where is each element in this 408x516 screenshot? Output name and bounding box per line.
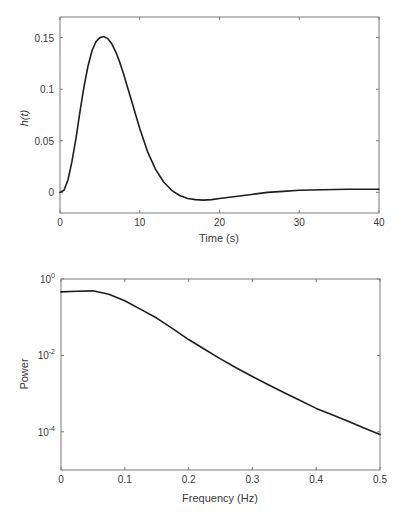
top-x-ticks: 010203040: [57, 17, 385, 228]
x-tick-label: 20: [214, 217, 226, 228]
bottom-x-ticks: 00.10.20.30.40.5: [58, 279, 387, 485]
y-tick-label: 0.15: [35, 33, 55, 44]
top-y-ticks: 00.050.10.15: [35, 33, 379, 199]
x-tick-label: 10: [134, 217, 146, 228]
x-tick-label: 0.2: [182, 474, 196, 485]
bottom-x-axis-label: Frequency (Hz): [182, 492, 258, 504]
impulse-response-curve: [60, 37, 379, 201]
top-y-axis-label: h(t): [18, 109, 30, 126]
x-tick-label: 0: [57, 217, 63, 228]
power-spectrum-curve: [61, 291, 380, 435]
bottom-y-axis-label: Power: [18, 358, 30, 390]
y-tick-label: 100: [40, 272, 55, 285]
x-tick-label: 40: [373, 217, 385, 228]
x-tick-label: 0.5: [373, 474, 387, 485]
bottom-axes-frame: [61, 279, 380, 470]
y-tick-label: 0.05: [35, 136, 55, 147]
x-tick-label: 0.4: [309, 474, 323, 485]
top-axes-frame: [60, 17, 379, 213]
y-tick-label: 10-4: [38, 425, 55, 438]
x-tick-label: 30: [294, 217, 306, 228]
x-tick-label: 0: [58, 474, 64, 485]
x-tick-label: 0.1: [118, 474, 132, 485]
top-x-axis-label: Time (s): [199, 232, 239, 244]
y-tick-label: 10-2: [38, 348, 55, 361]
y-tick-label: 0: [48, 187, 54, 198]
power-spectrum-chart: 00.10.20.30.40.5 10010-210-4 Frequency (…: [18, 272, 387, 504]
impulse-response-chart: 010203040 00.050.10.15 Time (s) h(t): [18, 17, 385, 244]
y-tick-label: 0.1: [40, 84, 54, 95]
figure: 010203040 00.050.10.15 Time (s) h(t) 00.…: [0, 0, 408, 516]
x-tick-label: 0.3: [245, 474, 259, 485]
